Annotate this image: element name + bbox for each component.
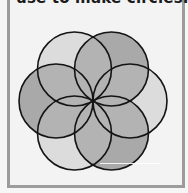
page: use to make circles.: [0, 0, 188, 193]
scan-artifact-line: [100, 163, 160, 164]
six-circle-flower-diagram: [0, 0, 188, 193]
